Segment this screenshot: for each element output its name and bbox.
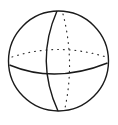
sphere-outline	[9, 11, 109, 111]
sphere-svg	[0, 0, 118, 125]
front-meridian-solid	[46, 11, 58, 111]
back-meridian-dotted	[63, 14, 70, 108]
back-equator-dotted	[12, 50, 106, 58]
front-equator-solid	[10, 63, 108, 74]
sphere-diagram	[0, 0, 118, 125]
